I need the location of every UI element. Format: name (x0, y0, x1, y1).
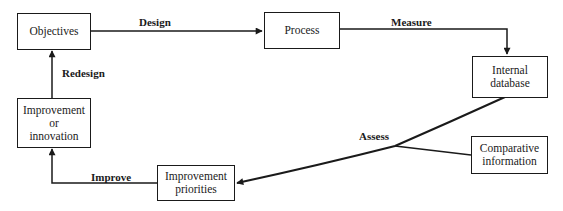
comparative-line (395, 146, 471, 155)
node-improvement-line2: or (49, 117, 59, 130)
node-process-label: Process (284, 24, 319, 37)
node-objectives-label: Objectives (29, 25, 78, 38)
node-comparative-line1: Comparative (480, 142, 539, 155)
node-internal-database-line2: database (490, 77, 530, 90)
node-improvement-priorities: Improvement priorities (157, 165, 235, 201)
node-objectives: Objectives (17, 13, 91, 50)
node-improvement-line1: Improvement (23, 104, 85, 117)
measure-arrow (339, 29, 507, 54)
node-priorities-line1: Improvement (165, 170, 227, 183)
assess-arrow (237, 146, 395, 183)
node-internal-database-line1: Internal (492, 64, 528, 77)
node-internal-database: Internal database (472, 56, 548, 98)
node-improvement-line3: innovation (29, 130, 78, 143)
node-improvement-or-innovation: Improvement or innovation (17, 98, 91, 148)
edge-label-measure: Measure (391, 16, 432, 28)
edge-label-assess: Assess (359, 130, 389, 142)
node-comparative-information: Comparative information (471, 136, 548, 174)
node-priorities-line2: priorities (175, 183, 217, 196)
node-process: Process (264, 12, 340, 49)
edge-label-design: Design (139, 16, 171, 28)
node-comparative-line2: information (482, 155, 536, 168)
edge-label-improve: Improve (91, 171, 131, 183)
edge-label-redesign: Redesign (62, 67, 105, 79)
